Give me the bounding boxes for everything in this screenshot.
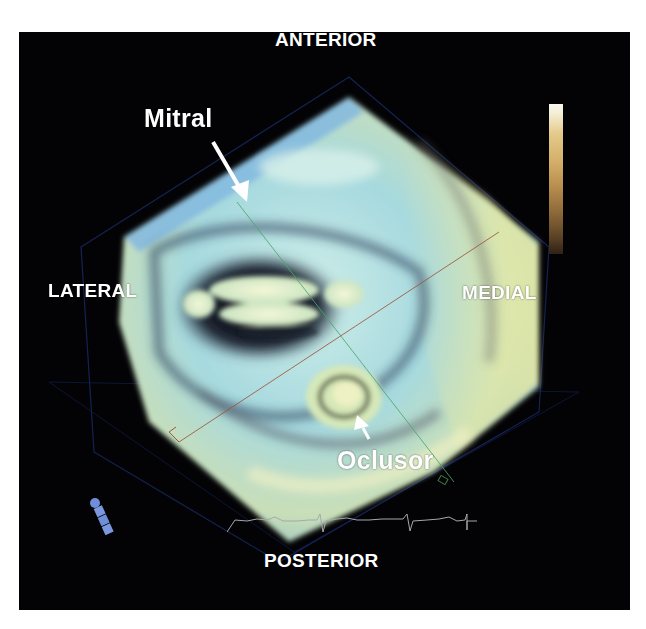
ecg-trace [227, 512, 477, 552]
lateral-label: LATERAL [48, 280, 137, 302]
orientation-axis-icon [89, 497, 129, 547]
posterior-label: POSTERIOR [264, 550, 379, 572]
echo-3d-image-frame: ANTERIOR POSTERIOR LATERAL MEDIAL Mitral… [19, 32, 630, 610]
anterior-label: ANTERIOR [275, 32, 377, 51]
intensity-colorbar [549, 104, 563, 254]
medial-label: MEDIAL [462, 282, 537, 304]
mitral-annotation: Mitral [144, 104, 212, 133]
occluder-annotation: Oclusor [337, 446, 434, 475]
